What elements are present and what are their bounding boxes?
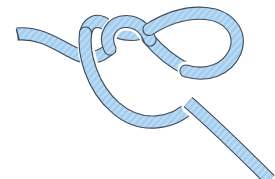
knot-diagram: [0, 0, 275, 179]
knot-illustration-canvas: [0, 0, 275, 179]
